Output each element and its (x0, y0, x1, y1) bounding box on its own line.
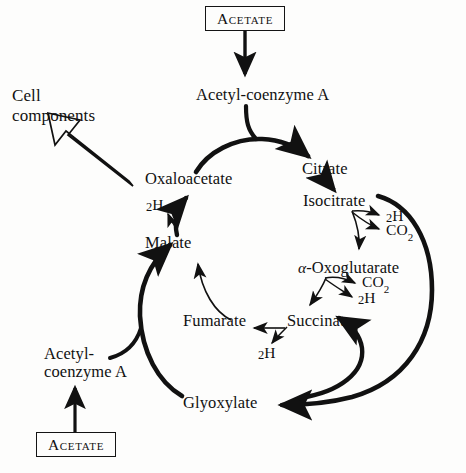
node-citrate: Citrate (302, 160, 348, 178)
node-oxaloacetate: Oxaloacetate (145, 170, 232, 188)
oxoglutarate-alpha-prefix: α (298, 259, 306, 276)
cofactor-2h-succinate-count: 2 (258, 348, 264, 362)
acetate-box-top-label: Acetate (217, 10, 273, 28)
arrow-oxoglutarate-releases-2h (325, 279, 352, 297)
arrow-succinate-releases-2h (272, 327, 287, 343)
cofactor-2h-succinate: 2H (258, 344, 276, 361)
acetate-box-bottom-label: Acetate (48, 436, 104, 454)
node-isocitrate: Isocitrate (303, 192, 365, 210)
arrow-malate-to-oxaloacetate (176, 198, 186, 235)
cofactor-co2-oxoglutarate-subscript: 2 (384, 283, 390, 295)
cofactor-2h-oxoglutarate-count: 2 (358, 293, 364, 307)
arrow-citrate-to-isocitrate (324, 178, 334, 190)
cofactor-co2-isocitrate: CO2 (386, 221, 413, 241)
cofactor-2h-succinate-symbol: H (264, 344, 275, 361)
cofactor-2h-malate: 2H (146, 196, 164, 213)
arrow-glyoxylate-to-malate (140, 245, 182, 396)
node-glyoxylate: Glyoxylate (183, 394, 257, 412)
node-cell-components: Cell components (12, 86, 122, 126)
acetate-box-bottom: Acetate (36, 432, 116, 457)
cofactor-co2-isocitrate-symbol: CO (386, 221, 408, 238)
node-acetyl-coenzyme-a-top: Acetyl-coenzyme A (196, 86, 329, 104)
cofactor-2h-malate-symbol: H (152, 196, 163, 213)
arrow-acetylcoa-into-cycle (246, 106, 256, 139)
arrow-oxaloacetate-to-citrate (196, 139, 308, 172)
cofactor-co2-oxoglutarate: CO2 (362, 273, 389, 293)
acetate-box-top: Acetate (205, 6, 285, 31)
cofactor-co2-oxoglutarate-symbol: CO (362, 273, 384, 290)
node-acetyl-coenzyme-a-bottom: Acetyl- coenzyme A (44, 345, 140, 382)
node-succinate: Succinate (287, 312, 352, 330)
cofactor-2h-malate-count: 2 (146, 200, 152, 214)
node-malate: Malate (145, 234, 191, 252)
glyoxylate-cycle-diagram: Acetate Acetate Acetyl-coenzyme A Citrat… (0, 0, 466, 473)
cofactor-co2-isocitrate-subscript: 2 (408, 231, 414, 243)
acetyl-coa-bottom-line2: coenzyme A (44, 362, 127, 381)
node-fumarate: Fumarate (183, 312, 246, 330)
acetyl-coa-bottom-line1: Acetyl- (44, 344, 94, 363)
arrow-oxoglutarate-to-succinate (310, 278, 326, 305)
